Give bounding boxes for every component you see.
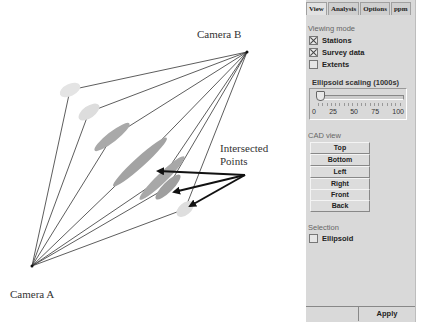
- selection-heading: Selection: [308, 223, 339, 232]
- error-ellipse: [92, 120, 133, 155]
- extents-label: Extents: [322, 60, 349, 69]
- stations-label: Stations: [322, 36, 352, 45]
- tick-label: 0: [312, 108, 316, 115]
- ellipse-intersection-diagram: Camera B Camera A Intersected Points: [0, 0, 305, 332]
- error-ellipse: [173, 198, 196, 220]
- ellipsoid-scaling-slider[interactable]: 0 25 50 75 100: [309, 88, 407, 120]
- ellipsoid-checkbox[interactable]: [309, 234, 318, 243]
- error-ellipse: [57, 80, 82, 100]
- tick-label: 75: [371, 108, 379, 115]
- survey-data-checkbox-row[interactable]: Survey data: [309, 47, 365, 57]
- ellipsoid-checkbox-row[interactable]: Ellipsoid: [309, 233, 353, 243]
- ray-from-camera-a: [32, 137, 112, 266]
- ray-to-camera-b: [89, 52, 247, 112]
- ray-from-camera-a: [32, 209, 185, 266]
- intersected-points-label-line2: Points: [220, 155, 248, 167]
- intersected-points-label-line1: Intersected: [220, 142, 268, 154]
- slider-track[interactable]: [318, 95, 404, 100]
- ray-to-camera-b: [112, 52, 247, 137]
- bottom-bar: Apply: [306, 306, 415, 321]
- survey-data-checkbox[interactable]: [309, 48, 318, 57]
- extents-checkbox-row[interactable]: Extents: [309, 59, 349, 69]
- tab-options[interactable]: Options: [360, 2, 390, 15]
- ray-to-camera-b: [70, 52, 247, 90]
- viewing-mode-heading: Viewing mode: [308, 24, 355, 33]
- error-ellipse: [76, 100, 103, 124]
- control-panel: View Analysis Options ppm Viewing mode S…: [306, 0, 416, 322]
- extents-checkbox[interactable]: [309, 60, 318, 69]
- tick-label: 50: [350, 108, 358, 115]
- ray-from-camera-a: [32, 178, 162, 266]
- ellipsoid-scaling-heading: Ellipsoid scaling (1000s): [312, 78, 399, 87]
- tab-view[interactable]: View: [306, 2, 327, 15]
- slider-tick-labels: 0 25 50 75 100: [312, 108, 404, 115]
- camera-b-label: Camera B: [197, 28, 241, 40]
- camera-point: [31, 265, 34, 268]
- camera-point: [246, 51, 249, 54]
- tab-analysis[interactable]: Analysis: [328, 2, 359, 15]
- camera-a-label: Camera A: [10, 288, 54, 300]
- survey-data-label: Survey data: [322, 48, 365, 57]
- tab-bar: View Analysis Options ppm: [306, 2, 412, 16]
- bottom-bar-spacer: [306, 307, 359, 321]
- apply-button[interactable]: Apply: [359, 307, 415, 321]
- cad-back-button[interactable]: Back: [310, 200, 370, 212]
- pointer-arrow: [174, 175, 245, 192]
- cad-view-heading: CAD view: [308, 131, 341, 140]
- stations-checkbox-row[interactable]: Stations: [309, 35, 352, 45]
- ray-from-camera-a: [32, 187, 168, 266]
- tick-label: 100: [392, 108, 404, 115]
- cad-bottom-button[interactable]: Bottom: [310, 154, 370, 166]
- slider-thumb[interactable]: [316, 91, 325, 101]
- slider-ticks: [318, 103, 404, 106]
- diagram-canvas: [0, 0, 305, 332]
- ellipsoid-label: Ellipsoid: [322, 234, 353, 243]
- stations-checkbox[interactable]: [309, 36, 318, 45]
- tab-ppm[interactable]: ppm: [391, 2, 411, 15]
- pointer-arrow: [190, 175, 245, 206]
- tick-label: 25: [329, 108, 337, 115]
- cad-top-button[interactable]: Top: [310, 142, 370, 154]
- cad-left-button[interactable]: Left: [310, 166, 370, 178]
